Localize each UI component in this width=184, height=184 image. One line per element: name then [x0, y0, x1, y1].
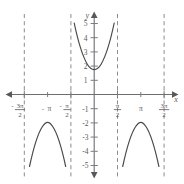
coordinate-plane-svg: 5 4 3 2 1 -1 -2 -3 -4 -5 - 3π 2 - π — [0, 0, 184, 184]
y-axis-arrow-up — [91, 12, 98, 19]
y-tick-label-5: 5 — [84, 19, 88, 28]
x-tick-label-neg-pi: - π — [42, 104, 52, 113]
x-tick-denominator-neg-3pi-over-2: 2 — [18, 111, 22, 119]
x-tick-denominator-neg-pi-over-2: 2 — [65, 111, 69, 119]
y-tick-label-3: 3 — [84, 48, 88, 57]
x-tick-sign-neg-pi-over-2: - — [59, 102, 62, 110]
y-tick-label-1: 1 — [84, 76, 88, 85]
x-tick-sign-neg-pi: - — [42, 105, 45, 113]
y-tick-label-neg-4: -4 — [82, 147, 88, 156]
curve-left-lower-branch — [30, 122, 66, 166]
y-tick-label-2: 2 — [84, 62, 88, 71]
x-tick-numerator-neg-3pi-over-2: 3π — [16, 102, 24, 110]
x-tick-pi-glyph-neg-pi: π — [48, 104, 52, 113]
x-tick-denominator-3pi-over-2: 2 — [162, 111, 166, 119]
y-axis-label: y — [84, 11, 89, 20]
y-tick-label-neg-1: -1 — [82, 105, 88, 114]
x-tick-pi-glyph: π — [139, 104, 143, 113]
x-tick-denominator-pi-over-2: 2 — [116, 111, 120, 119]
y-tick-label-neg-3: -3 — [82, 133, 88, 142]
y-tick-label-neg-2: -2 — [82, 119, 88, 128]
x-tick-label-pi: π — [139, 104, 143, 113]
x-tick-numerator-3pi-over-2: 3π — [161, 102, 169, 110]
y-tick-label-neg-5: -5 — [82, 161, 88, 170]
y-axis-arrow-down — [91, 172, 98, 179]
x-axis-label: x — [173, 95, 178, 104]
x-tick-numerator-pi-over-2: π — [116, 102, 120, 110]
curve-right-lower-branch — [123, 122, 159, 166]
x-tick-label-pi-over-2: π 2 — [114, 102, 121, 120]
y-tick-label-4: 4 — [84, 34, 88, 43]
x-tick-numerator-neg-pi-over-2: π — [65, 102, 69, 110]
x-tick-sign-neg-3pi-over-2: - — [11, 102, 14, 110]
x-axis-arrow-left — [6, 91, 13, 98]
x-tick-label-3pi-over-2: 3π 2 — [159, 102, 169, 120]
x-axis-group — [6, 91, 179, 99]
x-tick-label-neg-pi-over-2: - π 2 — [59, 102, 70, 120]
graph-figure: 5 4 3 2 1 -1 -2 -3 -4 -5 - 3π 2 - π — [0, 0, 184, 184]
x-tick-label-group: - 3π 2 - π - π 2 π 2 — [11, 102, 169, 120]
x-tick-label-neg-3pi-over-2: - 3π 2 — [11, 102, 25, 120]
